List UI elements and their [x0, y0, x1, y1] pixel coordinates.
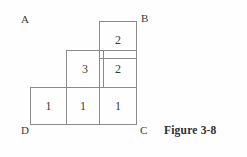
grid-cell-middle-right: 2: [99, 50, 137, 88]
vertex-label-c: C: [140, 125, 147, 136]
vertex-label-b: B: [141, 13, 148, 24]
grid-cell-bottom-left: 1: [30, 87, 67, 125]
vertex-label-a: A: [21, 14, 29, 25]
cell-value: 1: [80, 100, 86, 112]
cell-value: 3: [82, 63, 88, 75]
cell-value: 1: [115, 100, 121, 112]
cell-value: 1: [46, 100, 52, 112]
grid-cell-bottom-right: 1: [99, 87, 137, 125]
figure-caption: Figure 3-8: [164, 124, 217, 136]
grid-cell-bottom-middle: 1: [66, 87, 100, 125]
cell-value: 2: [115, 63, 121, 75]
cell-value: 2: [115, 34, 121, 46]
figure-canvas: 2 3 2 1 1 1 A B C D Figure 3-8: [0, 0, 247, 157]
vertex-label-d: D: [21, 125, 29, 136]
